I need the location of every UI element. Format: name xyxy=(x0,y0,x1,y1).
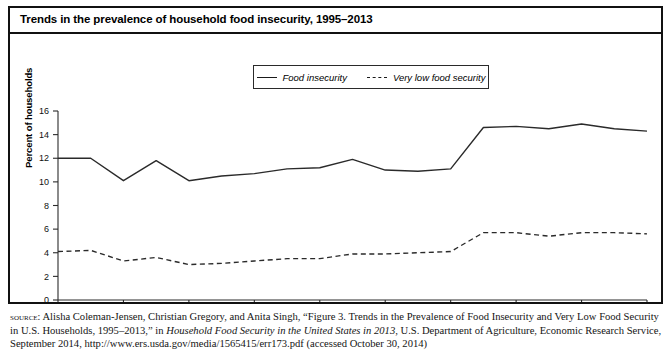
svg-text:12: 12 xyxy=(39,153,49,163)
series-line-very-low-food-security xyxy=(58,233,647,265)
series-line-food-insecurity xyxy=(58,124,647,181)
y-axis-ticks: 0246810121416 xyxy=(39,106,58,302)
source-publication-title: Household Food Security in the United St… xyxy=(166,325,395,336)
source-prefix: source: xyxy=(10,311,40,322)
source-note: source: Alisha Coleman-Jensen, Christian… xyxy=(10,310,665,351)
svg-text:14: 14 xyxy=(39,130,49,140)
svg-text:6: 6 xyxy=(44,224,49,234)
title-bar: Trends in the prevalence of household fo… xyxy=(10,8,661,34)
chart-plot-area: 0246810121416 19951997199920012003200520… xyxy=(10,34,661,302)
figure-panel: Trends in the prevalence of household fo… xyxy=(8,6,663,304)
svg-text:16: 16 xyxy=(39,106,49,116)
svg-text:2: 2 xyxy=(44,272,49,282)
svg-text:8: 8 xyxy=(44,201,49,211)
page-title: Trends in the prevalence of household fo… xyxy=(20,13,373,25)
svg-text:0: 0 xyxy=(44,295,49,302)
svg-text:10: 10 xyxy=(39,177,49,187)
svg-text:4: 4 xyxy=(44,248,49,258)
